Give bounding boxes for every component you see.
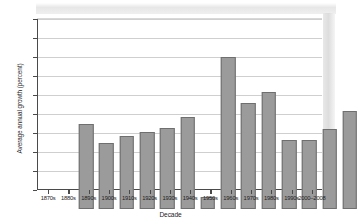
bar	[221, 57, 236, 209]
x-tick-label: 1880s	[61, 195, 76, 201]
scan-artifact-top-band	[36, 3, 336, 14]
x-tick-label: 1940s	[183, 195, 198, 201]
y-tick-mark	[33, 171, 37, 172]
bar	[343, 111, 358, 209]
y-tick-mark	[33, 152, 37, 153]
x-tick-label: 1970s	[244, 195, 259, 201]
x-tick-label: 2000–2008	[298, 195, 325, 201]
x-tick-label: 1870s	[41, 195, 56, 201]
x-tick-mark	[271, 190, 272, 194]
bar-slot	[198, 38, 218, 209]
y-tick-mark	[33, 190, 37, 191]
gridline	[38, 19, 322, 20]
y-tick-mark	[33, 38, 37, 39]
x-tick-mark	[89, 190, 90, 194]
bar-slot	[76, 38, 96, 209]
bar-slot	[299, 38, 319, 209]
bar-slot	[238, 38, 258, 209]
bars-layer	[76, 38, 360, 209]
bar-slot	[319, 38, 339, 209]
y-tick-mark	[33, 19, 37, 20]
bar-slot	[157, 38, 177, 209]
x-tick-mark	[190, 190, 191, 194]
bar-slot	[117, 38, 137, 209]
x-tick-mark	[48, 190, 49, 194]
x-tick-label: 1900s	[102, 195, 117, 201]
bar-slot	[96, 38, 116, 209]
x-tick-mark	[150, 190, 151, 194]
x-axis-title: Decade	[0, 211, 341, 218]
bar-slot	[340, 38, 360, 209]
y-tick-mark	[33, 133, 37, 134]
x-tick-mark	[251, 190, 252, 194]
x-tick-label: 1980s	[264, 195, 279, 201]
y-tick-mark	[33, 114, 37, 115]
y-tick-mark	[33, 76, 37, 77]
x-tick-mark	[170, 190, 171, 194]
x-tick-label: 1960s	[223, 195, 238, 201]
x-tick-label: 1990s	[284, 195, 299, 201]
bar-slot	[137, 38, 157, 209]
y-tick-mark	[33, 95, 37, 96]
x-tick-label: 1930s	[162, 195, 177, 201]
x-tick-mark	[292, 190, 293, 194]
y-axis-title: Average annual growth (percent)	[16, 34, 23, 184]
y-tick-mark	[33, 57, 37, 58]
x-tick-mark	[129, 190, 130, 194]
x-tick-label: 1910s	[122, 195, 137, 201]
bar-slot	[279, 38, 299, 209]
bar-slot	[177, 38, 197, 209]
x-tick-mark	[109, 190, 110, 194]
bar-slot	[218, 38, 238, 209]
x-tick-mark	[231, 190, 232, 194]
bar	[261, 92, 276, 209]
x-tick-label: 1950s	[203, 195, 218, 201]
bar-slot	[259, 38, 279, 209]
x-tick-mark	[68, 190, 69, 194]
bar	[241, 103, 256, 209]
plot-area	[37, 19, 322, 190]
x-tick-mark	[312, 190, 313, 194]
x-tick-label: 1920s	[142, 195, 157, 201]
x-tick-label: 1890s	[81, 195, 96, 201]
x-tick-mark	[210, 190, 211, 194]
